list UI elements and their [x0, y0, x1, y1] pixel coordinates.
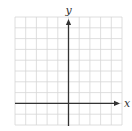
x-axis-arrow-icon	[114, 101, 120, 106]
x-axis-label: x	[124, 97, 131, 110]
y-axis	[66, 19, 71, 126]
coordinate-plane: x y	[0, 0, 132, 131]
y-axis-label: y	[65, 4, 73, 17]
x-axis	[15, 101, 120, 106]
y-axis-arrow-icon	[66, 19, 71, 25]
